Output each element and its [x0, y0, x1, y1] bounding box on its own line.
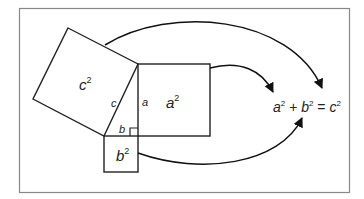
side-b-label: b — [119, 123, 125, 135]
a-squared-label: a2 — [166, 93, 179, 111]
b-squared-label: b2 — [116, 146, 129, 164]
arrow-a-to-equation — [210, 65, 273, 92]
equation: a2 + b2 = c2 — [273, 93, 341, 115]
side-c-label: c — [111, 97, 117, 109]
arrow-b-to-equation — [138, 118, 302, 164]
side-a-label: a — [142, 96, 148, 108]
pythagoras-diagram: c2 a2 b2 c a b a2 + b2 = c2 — [0, 0, 364, 199]
c-squared-label: c2 — [79, 75, 92, 93]
right-angle-marker — [130, 128, 138, 136]
